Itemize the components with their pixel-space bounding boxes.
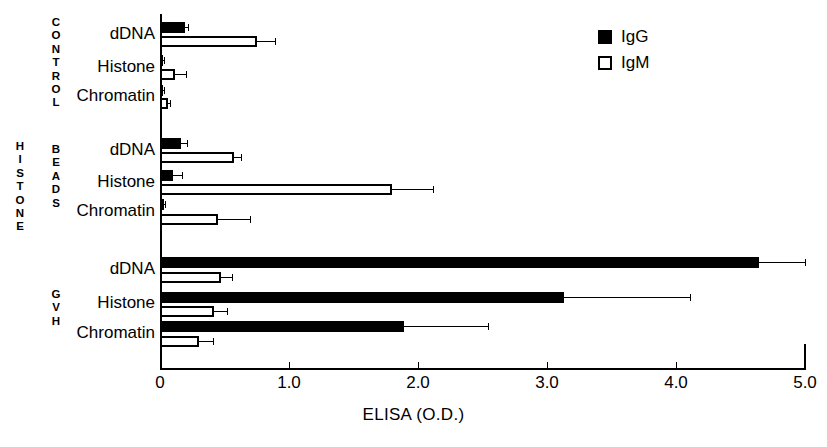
- errorbar-control-histone-igm: [175, 74, 185, 75]
- errorbar-cap-beads-ddna-igm: [241, 154, 242, 161]
- errorbar-gvh-histone-igg: [564, 297, 690, 298]
- category-label-chromatin: Chromatin: [77, 87, 155, 104]
- errorbar-cap-gvh-chromatin-igm: [213, 338, 214, 345]
- category-label-histone: Histone: [97, 294, 155, 311]
- errorbar-cap-control-ddna-igm: [275, 38, 276, 45]
- x-tick-4: [676, 362, 677, 370]
- x-tick-2: [418, 362, 419, 370]
- group-label-beads-letter: A: [48, 170, 64, 183]
- legend-swatch-filled-square-icon: [598, 30, 612, 44]
- errorbar-cap-gvh-histone-igg: [690, 294, 691, 301]
- bar-control-ddna-igg: [160, 22, 185, 33]
- x-tick-label-4: 4.0: [664, 374, 688, 392]
- legend: IgG IgM: [598, 24, 649, 76]
- errorbar-cap-gvh-ddna-igg: [805, 259, 806, 266]
- legend-item-igm: IgM: [598, 50, 649, 76]
- group-label-beads-letter: S: [48, 197, 64, 210]
- group-label-beads-letter: B: [48, 143, 64, 156]
- errorbar-cap-control-histone-igg: [164, 57, 165, 64]
- x-tick-3: [547, 362, 548, 370]
- errorbar-cap-beads-chromatin-igm: [250, 216, 251, 223]
- outer-label-letter: O: [12, 194, 28, 207]
- group-label-beads: BEADS: [48, 143, 64, 210]
- outer-group-label-histone: HISTONE: [12, 140, 28, 234]
- x-axis-title: ELISA (O.D.): [0, 405, 827, 425]
- group-label-gvh-letter: H: [48, 315, 64, 328]
- errorbar-cap-beads-histone-igm: [433, 186, 434, 193]
- group-label-control-letter: N: [48, 43, 64, 56]
- group-label-control-letter: O: [48, 29, 64, 42]
- group-label-control-letter: O: [48, 83, 64, 96]
- errorbar-gvh-chromatin-igm: [199, 341, 213, 342]
- chart-figure: HISTONE CONTROL BEADS GVH dDNAHistoneChr…: [0, 0, 827, 447]
- bar-gvh-histone-igg: [160, 292, 564, 303]
- bar-beads-histone-igm: [160, 184, 392, 195]
- errorbar-cap-control-ddna-igg: [188, 24, 189, 31]
- x-tick-label-1: 1.0: [277, 374, 301, 392]
- errorbar-cap-control-chromatin-igg: [164, 87, 165, 94]
- outer-label-letter: H: [12, 140, 28, 153]
- group-label-gvh-letter: G: [48, 288, 64, 301]
- bar-control-ddna-igm: [160, 36, 257, 47]
- bar-control-histone-igm: [160, 69, 175, 80]
- x-tick-label-5: 5.0: [793, 374, 817, 392]
- bar-gvh-ddna-igg: [160, 257, 759, 268]
- category-label-chromatin: Chromatin: [77, 202, 155, 219]
- group-label-beads-letter: D: [48, 183, 64, 196]
- errorbar-gvh-histone-igm: [214, 311, 227, 312]
- group-label-control-letter: R: [48, 70, 64, 83]
- category-label-ddna: dDNA: [110, 141, 155, 158]
- errorbar-cap-beads-chromatin-igg: [165, 201, 166, 208]
- group-label-control: CONTROL: [48, 16, 64, 110]
- errorbar-cap-beads-histone-igg: [182, 172, 183, 179]
- errorbar-control-ddna-igm: [257, 41, 275, 42]
- x-axis-line: [160, 368, 806, 370]
- errorbar-cap-gvh-ddna-igm: [232, 274, 233, 281]
- errorbar-cap-gvh-chromatin-igg: [488, 323, 489, 330]
- bar-gvh-ddna-igm: [160, 272, 221, 283]
- category-label-histone: Histone: [97, 173, 155, 190]
- errorbar-gvh-ddna-igm: [221, 277, 233, 278]
- category-label-chromatin: Chromatin: [77, 324, 155, 341]
- group-label-control-letter: L: [48, 96, 64, 109]
- errorbar-beads-ddna-igm: [234, 157, 242, 158]
- legend-label-igm: IgM: [621, 50, 649, 76]
- errorbar-beads-histone-igm: [392, 189, 433, 190]
- errorbar-cap-beads-ddna-igg: [187, 140, 188, 147]
- plot-area: [160, 14, 805, 369]
- x-tick-1: [289, 362, 290, 370]
- bar-beads-ddna-igm: [160, 152, 234, 163]
- errorbar-cap-control-histone-igm: [186, 71, 187, 78]
- group-label-gvh: GVH: [48, 288, 64, 328]
- legend-item-igg: IgG: [598, 24, 649, 50]
- outer-label-letter: I: [12, 153, 28, 166]
- x-tick-label-0: 0: [155, 374, 164, 392]
- bar-gvh-histone-igm: [160, 306, 214, 317]
- group-label-control-letter: T: [48, 56, 64, 69]
- category-label-ddna: dDNA: [110, 260, 155, 277]
- errorbar-beads-chromatin-igm: [218, 219, 250, 220]
- bar-gvh-chromatin-igm: [160, 336, 199, 347]
- x-tick-label-2: 2.0: [406, 374, 430, 392]
- legend-label-igg: IgG: [621, 24, 648, 50]
- y-axis-line: [160, 14, 162, 369]
- category-label-ddna: dDNA: [110, 25, 155, 42]
- bar-beads-ddna-igg: [160, 138, 181, 149]
- group-label-gvh-letter: V: [48, 301, 64, 314]
- errorbar-gvh-chromatin-igg: [404, 326, 488, 327]
- group-label-control-letter: C: [48, 16, 64, 29]
- errorbar-gvh-ddna-igg: [759, 262, 805, 263]
- bar-gvh-chromatin-igg: [160, 321, 404, 332]
- errorbar-cap-gvh-histone-igm: [227, 308, 228, 315]
- outer-label-letter: T: [12, 180, 28, 193]
- legend-swatch-open-square-icon: [598, 56, 612, 70]
- bar-beads-chromatin-igm: [160, 214, 218, 225]
- errorbar-cap-control-chromatin-igm: [170, 100, 171, 107]
- group-label-beads-letter: E: [48, 156, 64, 169]
- x-tick-label-3: 3.0: [535, 374, 559, 392]
- x-axis-left-cap: [160, 344, 162, 370]
- errorbar-beads-histone-igg: [173, 175, 182, 176]
- x-tick-5: [805, 362, 806, 370]
- outer-label-letter: N: [12, 207, 28, 220]
- category-label-histone: Histone: [97, 58, 155, 75]
